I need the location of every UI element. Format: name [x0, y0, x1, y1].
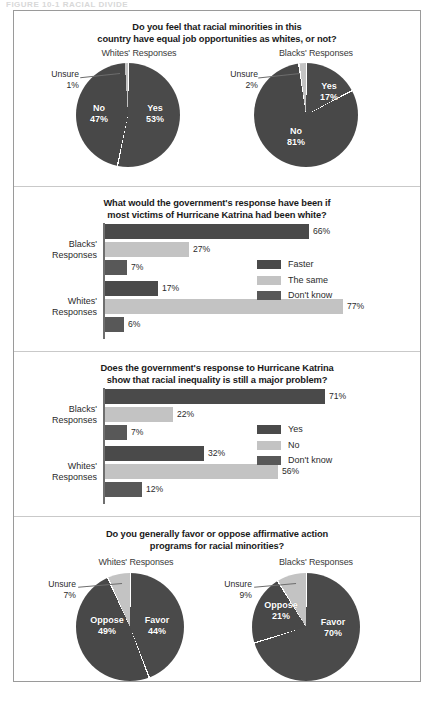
panel2-legend-label-faster: Faster: [288, 258, 314, 270]
panel2-title: What would the government's response hav…: [34, 198, 400, 221]
panel1-right-slice-no: No81%: [279, 126, 313, 148]
legend-swatch-icon: [257, 276, 281, 285]
panel2-bar-blacks-dontknow: [105, 260, 127, 275]
panel2-group-label-whites: Whites'Responses: [14, 296, 97, 318]
panel3-legend-label-no: No: [288, 439, 300, 451]
panel4-left-slice-favor: Favor44%: [138, 615, 176, 637]
panel4-title-line1: Do you generally favor or oppose affirma…: [34, 529, 400, 541]
panel1-left-slice-yes: Yes53%: [138, 103, 172, 125]
panel2-bar-blacks-same: [105, 242, 189, 257]
panel4-title-line2: programs for racial minorities?: [34, 541, 400, 553]
figure-page: FIGURE 10-1 RACIAL DIVIDE Do you feel th…: [0, 0, 437, 701]
panel3-bar-blacks-dontknow: [105, 425, 127, 440]
panel1-right-pie: [254, 63, 358, 167]
panel1-left-slice-unsure: Unsure1%: [35, 69, 79, 90]
panel3-bar-whites-no: [105, 464, 278, 479]
panel2-title-line1: What would the government's response hav…: [34, 198, 400, 210]
panel4-left-subtitle: Whites' Responses: [56, 557, 216, 567]
panel2-value-whites-same: 77%: [347, 299, 364, 314]
panel3-title-line2: show that racial inequality is still a m…: [34, 375, 400, 387]
panel3-legend-label-yes: Yes: [288, 423, 303, 435]
panel3-bar-whites-dontknow: [105, 482, 142, 497]
legend-swatch-icon: [257, 425, 281, 434]
panel3-group-label-blacks: Blacks'Responses: [14, 404, 97, 426]
panel3-value-blacks-dontknow: 7%: [131, 425, 143, 440]
panel2-value-blacks-faster: 66%: [313, 224, 330, 239]
panel3-value-blacks-no: 22%: [177, 407, 194, 422]
panel1-right-slice-unsure: Unsure2%: [214, 69, 258, 90]
panel3-value-whites-no: 56%: [282, 464, 299, 479]
panel3-value-whites-dontknow: 12%: [146, 482, 163, 497]
panel3-bar-blacks-no: [105, 407, 173, 422]
panel2-legend-label-dont-know: Don't know: [288, 289, 332, 301]
panel4-right-slice-favor: Favor70%: [314, 617, 352, 639]
panel-job-opportunities: Do you feel that racial minorities in th…: [14, 11, 420, 186]
panel4-right-slice-oppose: Oppose21%: [258, 600, 304, 622]
panel4-right-slice-unsure: Unsure9%: [204, 579, 252, 600]
panel1-right-slice-yes: Yes17%: [312, 81, 346, 103]
panel2-value-blacks-dontknow: 7%: [131, 260, 143, 275]
panel4-left-slice-oppose: Oppose49%: [85, 615, 129, 637]
panel3-title-line1: Does the government's response to Hurric…: [34, 363, 400, 375]
panel-katrina-response-speed: What would the government's response hav…: [14, 186, 420, 351]
legend-swatch-icon: [257, 291, 281, 300]
panel2-value-blacks-same: 27%: [193, 242, 210, 257]
legend-swatch-icon: [257, 456, 281, 465]
panel1-title-line1: Do you feel that racial minorities in th…: [34, 22, 400, 34]
panel3-bar-blacks-yes: [105, 389, 325, 404]
panel1-left-slice-no: No47%: [82, 103, 116, 125]
panel3-title: Does the government's response to Hurric…: [34, 363, 400, 386]
figure-frame: Do you feel that racial minorities in th…: [13, 10, 421, 682]
panel1-left-subtitle: Whites' Responses: [59, 48, 219, 58]
panel2-value-whites-dontknow: 6%: [128, 317, 140, 332]
panel2-group-label-blacks: Blacks'Responses: [14, 239, 97, 261]
legend-swatch-icon: [257, 260, 281, 269]
panel3-value-whites-yes: 32%: [208, 446, 225, 461]
legend-swatch-icon: [257, 441, 281, 450]
panel1-title-line2: country have equal job opportunities as …: [34, 34, 400, 46]
panel-affirmative-action: Do you generally favor or oppose affirma…: [14, 516, 420, 682]
panel1-right-subtitle: Blacks' Responses: [236, 48, 396, 58]
panel2-title-line2: most victims of Hurricane Katrina had be…: [34, 210, 400, 222]
panel3-bar-whites-yes: [105, 446, 204, 461]
panel-racial-inequality-problem: Does the government's response to Hurric…: [14, 351, 420, 516]
panel3-value-blacks-yes: 71%: [329, 389, 346, 404]
panel4-title: Do you generally favor or oppose affirma…: [34, 529, 400, 552]
panel3-legend-label-dont-know: Don't know: [288, 454, 332, 466]
panel4-left-slice-unsure: Unsure7%: [28, 579, 76, 600]
panel3-group-label-whites: Whites'Responses: [14, 461, 97, 483]
panel2-bar-blacks-faster: [105, 224, 309, 239]
panel2-bar-whites-dontknow: [105, 317, 124, 332]
panel2-value-whites-faster: 17%: [162, 281, 179, 296]
panel2-bar-whites-same: [105, 299, 343, 314]
panel1-title: Do you feel that racial minorities in th…: [34, 22, 400, 45]
panel2-legend-label-the-same: The same: [288, 274, 328, 286]
panel2-bar-whites-faster: [105, 281, 158, 296]
panel4-right-subtitle: Blacks' Responses: [236, 557, 396, 567]
cropped-figure-header: FIGURE 10-1 RACIAL DIVIDE: [6, 0, 206, 8]
